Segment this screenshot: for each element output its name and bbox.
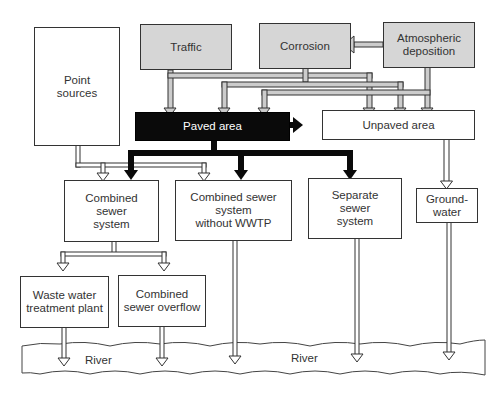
groundwater-box: Ground- water <box>416 188 478 223</box>
paved-area-box: Paved area <box>135 112 290 141</box>
wwtp-box: Waste water treatment plant <box>20 276 109 328</box>
atmospheric-deposition-box: Atmospheric deposition <box>383 22 475 68</box>
unpaved-area-box: Unpaved area <box>322 110 475 140</box>
river-label-left: River <box>85 354 112 366</box>
unpaved-to-groundwater-arrow <box>444 139 449 183</box>
river-label-right: River <box>291 352 318 364</box>
point-source-arrows <box>76 145 206 175</box>
corrosion-box: Corrosion <box>259 23 351 69</box>
combined-sewer-no-wwtp-box: Combined sewer system without WWTP <box>175 180 292 241</box>
point-sources-box: Point sources <box>34 27 120 146</box>
combined-sewer-system-box: Combined sewer system <box>64 180 159 242</box>
cso-box: Combined sewer overflow <box>118 275 206 327</box>
traffic-box: Traffic <box>140 24 232 70</box>
separate-sewer-system-box: Separate sewer system <box>308 178 402 239</box>
combined-split-arrows <box>61 241 166 265</box>
